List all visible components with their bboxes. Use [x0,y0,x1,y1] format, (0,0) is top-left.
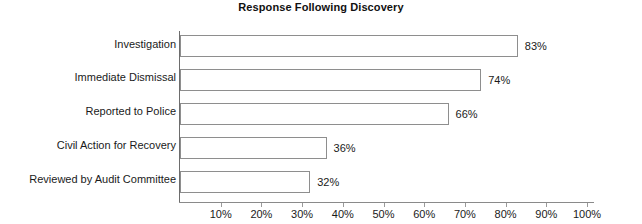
x-tick-mark [506,203,507,207]
bar-value-label: 74% [488,74,510,86]
bar[interactable] [180,171,310,193]
x-tick-label: 100% [557,208,617,220]
bar-chart: Response Following Discovery Investigati… [0,0,642,224]
x-tick-mark [384,203,385,207]
bar[interactable] [180,137,327,159]
x-tick-mark [424,203,425,207]
x-tick-mark [465,203,466,207]
category-label: Civil Action for Recovery [0,139,176,151]
x-tick-mark [261,203,262,207]
x-tick-mark [587,203,588,207]
bar[interactable] [180,103,449,125]
x-tick-mark [343,203,344,207]
bar-value-label: 36% [334,142,356,154]
bar-value-label: 83% [525,40,547,52]
category-label: Investigation [0,38,176,50]
bar[interactable] [180,69,481,91]
category-label: Immediate Dismissal [0,71,176,83]
x-tick-mark [546,203,547,207]
category-label: Reviewed by Audit Committee [0,173,176,185]
category-label: Reported to Police [0,105,176,117]
x-tick-mark [302,203,303,207]
x-tick-mark [221,203,222,207]
bar-value-label: 32% [317,176,339,188]
bar[interactable] [180,35,518,57]
bar-value-label: 66% [456,108,478,120]
plot-area: Investigation Immediate Dismissal Report… [0,0,642,224]
x-axis-line [179,202,594,203]
